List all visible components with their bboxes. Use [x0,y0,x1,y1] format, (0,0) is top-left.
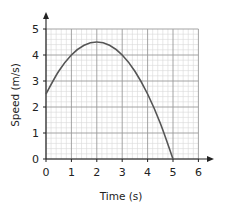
x-tick-labels: 0123456 [43,166,202,179]
y-axis-title: Speed (m/s) [9,63,21,127]
y-tick-label: 2 [32,101,39,114]
speed-time-chart: 0123456 012345 Time (s) Speed (m/s) [0,0,227,212]
y-tick-label: 1 [32,127,39,140]
y-tick-label: 5 [32,23,39,36]
x-axis-title: Time (s) [99,190,143,202]
x-axis-arrow-icon [207,156,214,162]
y-axis-arrow-icon [43,12,49,19]
x-tick-label: 2 [93,166,100,179]
major-grid [46,29,198,159]
y-tick-label: 3 [32,75,39,88]
speed-curve [46,42,173,159]
x-tick-label: 4 [144,166,151,179]
y-tick-label: 0 [32,153,39,166]
x-tick-label: 5 [170,166,177,179]
x-tick-label: 0 [43,166,50,179]
x-tick-label: 6 [195,166,202,179]
y-tick-labels: 012345 [32,23,39,166]
x-tick-label: 3 [119,166,126,179]
x-tick-label: 1 [68,166,75,179]
y-tick-label: 4 [32,49,39,62]
